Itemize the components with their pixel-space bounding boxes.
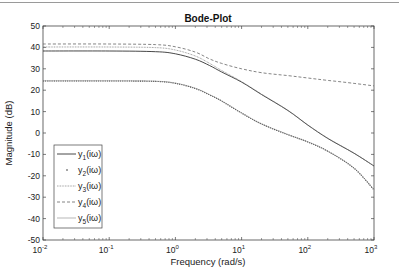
y-tick-label: -40 (28, 214, 41, 224)
legend-label: y1(iω) (78, 149, 101, 161)
legend-label: y5(iω) (78, 213, 101, 225)
y-tick-label: 0 (35, 128, 40, 138)
x-tick-label: 102 (298, 244, 311, 255)
x-tick-label: 10-2 (33, 244, 48, 255)
y-tick-label: -50 (28, 235, 41, 245)
y-tick-label: 20 (31, 85, 41, 95)
legend-label: y4(iω) (78, 197, 101, 209)
y-tick-label: 50 (31, 21, 41, 31)
legend-label: y2(iω) (78, 165, 101, 177)
x-tick-label: 101 (232, 244, 245, 255)
y-tick-label: 30 (31, 64, 41, 74)
y-tick-label: -20 (28, 171, 41, 181)
bode-plot-chart: Bode-Plot 50403020100-10-20-30-40-5010-2… (0, 0, 399, 279)
y-axis-label: Magnitude (dB) (3, 101, 14, 166)
legend-label: y3(iω) (78, 181, 101, 193)
x-axis-label: Frequency (rad/s) (171, 256, 246, 267)
x-tick-label: 10-1 (99, 244, 114, 255)
y-tick-label: 40 (31, 42, 41, 52)
legend-swatch (66, 169, 68, 171)
y-tick-label: 10 (31, 107, 41, 117)
y-tick-label: -10 (28, 149, 41, 159)
x-tick-label: 103 (365, 244, 378, 255)
chart-title: Bode-Plot (184, 13, 232, 24)
y-tick-label: -30 (28, 192, 41, 202)
legend: y1(iω)y2(iω)y3(iω)y4(iω)y5(iω) (54, 145, 102, 228)
x-tick-label: 100 (166, 244, 179, 255)
